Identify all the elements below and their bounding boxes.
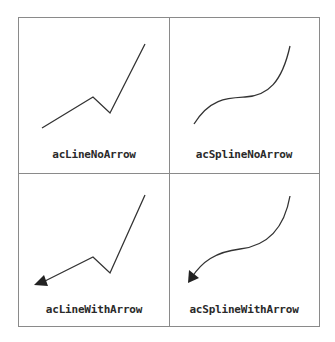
leader-drawings	[0, 0, 335, 342]
panel-label-spline-with-arrow: acSplineWithArrow	[169, 303, 319, 316]
panel-label-line-with-arrow: acLineWithArrow	[19, 303, 169, 316]
line-no-arrow-icon	[42, 44, 145, 128]
spline-no-arrow-icon	[194, 46, 290, 124]
line-with-arrow-icon	[34, 195, 145, 286]
spline-with-arrow-icon	[188, 196, 290, 283]
panel-label-spline-no-arrow: acSplineNoArrow	[169, 148, 319, 161]
arrowhead-icon	[188, 270, 199, 283]
panel-label-line-no-arrow: acLineNoArrow	[19, 148, 169, 161]
arrowhead-icon	[34, 275, 48, 286]
